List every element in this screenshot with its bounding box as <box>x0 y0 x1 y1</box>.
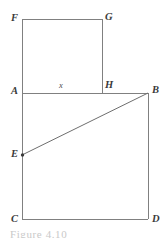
vertex-label-e: E <box>11 149 18 160</box>
geometry-figure: F G A x H B E C D Figure 4.10 <box>0 0 167 238</box>
figure-caption: Figure 4.10 <box>10 229 160 238</box>
segment-eb <box>22 93 148 155</box>
vertex-label-d: D <box>152 214 160 225</box>
point-e-marker <box>21 153 24 156</box>
figure-drawing-canvas <box>0 0 167 238</box>
vertex-label-g: G <box>105 12 113 23</box>
dimension-label-x: x <box>59 81 63 90</box>
vertex-label-h: H <box>105 80 113 91</box>
vertex-label-c: C <box>11 214 18 225</box>
vertex-label-b: B <box>152 85 159 96</box>
vertex-label-f: F <box>11 13 18 24</box>
vertex-label-a: A <box>11 86 18 97</box>
